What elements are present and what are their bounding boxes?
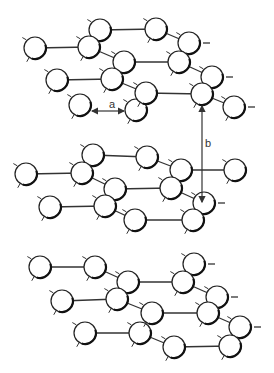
atom bbox=[161, 336, 185, 361]
atom bbox=[49, 290, 73, 315]
atom bbox=[37, 196, 61, 221]
atom bbox=[122, 209, 146, 234]
atom bbox=[195, 302, 219, 327]
atom bbox=[158, 177, 182, 202]
atom bbox=[82, 256, 106, 281]
lattice-label-a: a bbox=[109, 98, 116, 110]
atom bbox=[189, 83, 213, 108]
atom bbox=[217, 335, 241, 360]
diagram-canvas: a b bbox=[0, 0, 274, 373]
atom-circles bbox=[13, 18, 251, 361]
atom bbox=[143, 18, 167, 43]
atom bbox=[92, 195, 116, 220]
atom bbox=[127, 322, 151, 347]
molecular-packing-diagram: a b bbox=[0, 0, 274, 373]
atom bbox=[22, 37, 46, 62]
atom bbox=[134, 146, 158, 171]
atom bbox=[13, 163, 37, 188]
atom bbox=[166, 51, 190, 76]
atom bbox=[99, 68, 123, 93]
atom bbox=[67, 94, 91, 119]
atom bbox=[44, 69, 68, 94]
atom bbox=[76, 36, 100, 61]
atom bbox=[69, 162, 93, 187]
atom bbox=[180, 209, 204, 234]
atom bbox=[27, 256, 51, 281]
atom bbox=[221, 96, 245, 121]
atom bbox=[104, 288, 128, 313]
atom bbox=[72, 322, 96, 347]
atom bbox=[222, 159, 246, 184]
lattice-label-b: b bbox=[205, 137, 211, 149]
atom bbox=[170, 271, 194, 296]
